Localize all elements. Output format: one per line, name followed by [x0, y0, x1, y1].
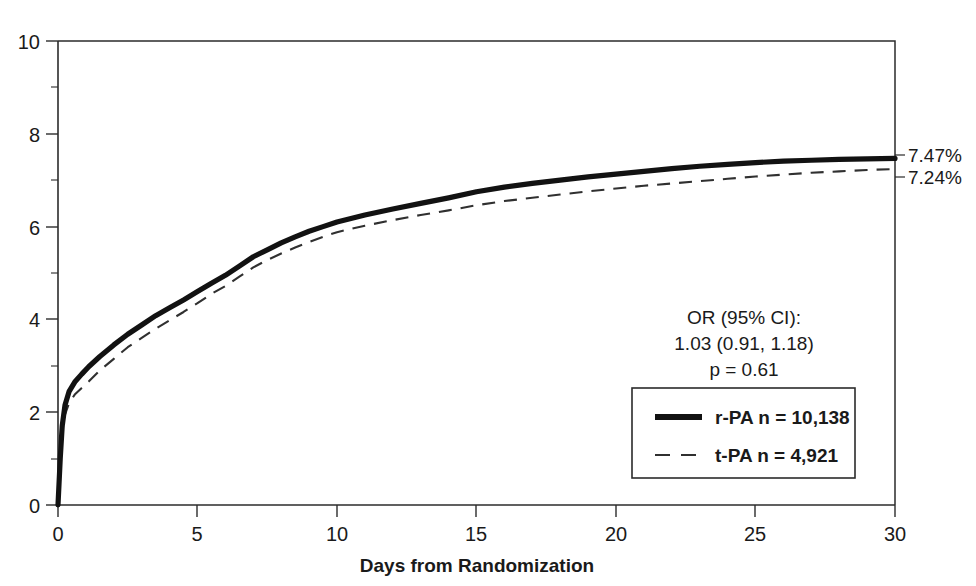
- y-tick-label: 8: [29, 124, 40, 146]
- end-labels: 7.47% 7.24%: [895, 145, 962, 188]
- kaplan-meier-figure: 10 8 6 4 2 0 0 5 10 15 20 25 30 Days: [0, 0, 976, 586]
- legend: r-PA n = 10,138 t-PA n = 4,921: [632, 388, 855, 478]
- x-tick-label: 25: [744, 523, 766, 545]
- y-tick-label: 6: [29, 217, 40, 239]
- statistics-annotation: OR (95% CI): 1.03 (0.91, 1.18) p = 0.61: [674, 307, 813, 380]
- y-tick-label: 2: [29, 402, 40, 424]
- end-label-t-pa: 7.24%: [908, 167, 962, 188]
- y-axis-tick-labels: 10 8 6 4 2 0: [18, 31, 40, 517]
- x-tick-label: 20: [605, 523, 627, 545]
- p-value: p = 0.61: [709, 359, 778, 380]
- x-tick-label: 15: [465, 523, 487, 545]
- odds-ratio-value: 1.03 (0.91, 1.18): [674, 333, 813, 354]
- odds-ratio-label: OR (95% CI):: [687, 307, 801, 328]
- x-tick-label: 5: [191, 523, 202, 545]
- end-label-r-pa: 7.47%: [908, 145, 962, 166]
- chart-canvas: 10 8 6 4 2 0 0 5 10 15 20 25 30 Days: [0, 0, 976, 586]
- legend-label-r-pa: r-PA n = 10,138: [715, 407, 850, 428]
- x-tick-label: 30: [884, 523, 906, 545]
- legend-label-t-pa: t-PA n = 4,921: [715, 445, 838, 466]
- x-tick-label: 0: [52, 523, 63, 545]
- y-tick-label: 10: [18, 31, 40, 53]
- x-tick-label: 10: [326, 523, 348, 545]
- y-axis-ticks: [46, 41, 58, 505]
- y-tick-label: 4: [29, 309, 40, 331]
- x-axis-tick-labels: 0 5 10 15 20 25 30: [52, 523, 906, 545]
- x-axis-ticks: [58, 505, 895, 517]
- y-tick-label: 0: [29, 495, 40, 517]
- x-axis-title: Days from Randomization: [360, 555, 594, 576]
